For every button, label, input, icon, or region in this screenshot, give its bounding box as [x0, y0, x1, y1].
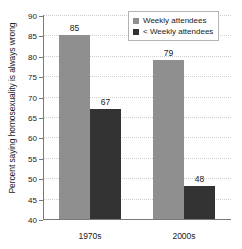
bar: 85	[59, 35, 90, 219]
y-axis-tick-label: 75	[28, 73, 37, 82]
y-axis-tick-label: 80	[28, 52, 37, 61]
y-axis-tick-mark	[39, 220, 43, 221]
y-axis-tick-label: 85	[28, 32, 37, 41]
bar-value-label: 85	[70, 23, 79, 33]
y-axis-tick-label: 45	[28, 195, 37, 204]
y-axis-tick-label: 90	[28, 12, 37, 21]
y-axis-tick-label: 65	[28, 114, 37, 123]
legend-item-label: Weekly attendees	[143, 15, 206, 26]
y-axis-tick-label: 70	[28, 93, 37, 102]
y-axis-tick-label: 50	[28, 175, 37, 184]
x-axis-line	[43, 219, 231, 220]
plot-area: 4045505560657075808590 85677948 1970s200…	[43, 15, 231, 220]
y-axis-tick-label: 40	[28, 216, 37, 225]
bar: 79	[153, 60, 184, 219]
legend-item-label: < Weekly attendees	[143, 26, 213, 37]
legend-item: < Weekly attendees	[133, 26, 213, 37]
bar-value-label: 48	[195, 174, 204, 184]
x-axis-tick-label: 1970s	[78, 231, 101, 241]
bar-value-label: 67	[101, 97, 110, 107]
bar: 48	[184, 186, 215, 219]
y-axis-tick-label: 55	[28, 154, 37, 163]
y-axis-line	[43, 15, 44, 220]
y-axis-title: Percent saying homosexuality is always w…	[7, 0, 17, 216]
legend-swatch-icon	[133, 29, 139, 35]
legend-item: Weekly attendees	[133, 15, 213, 26]
bar-value-label: 79	[164, 48, 173, 58]
legend-swatch-icon	[133, 18, 139, 24]
x-axis-tick-label: 2000s	[172, 231, 195, 241]
bar: 67	[90, 109, 121, 219]
bar-chart: Percent saying homosexuality is always w…	[0, 0, 242, 249]
legend: Weekly attendees< Weekly attendees	[128, 11, 219, 41]
y-axis-tick-label: 60	[28, 134, 37, 143]
